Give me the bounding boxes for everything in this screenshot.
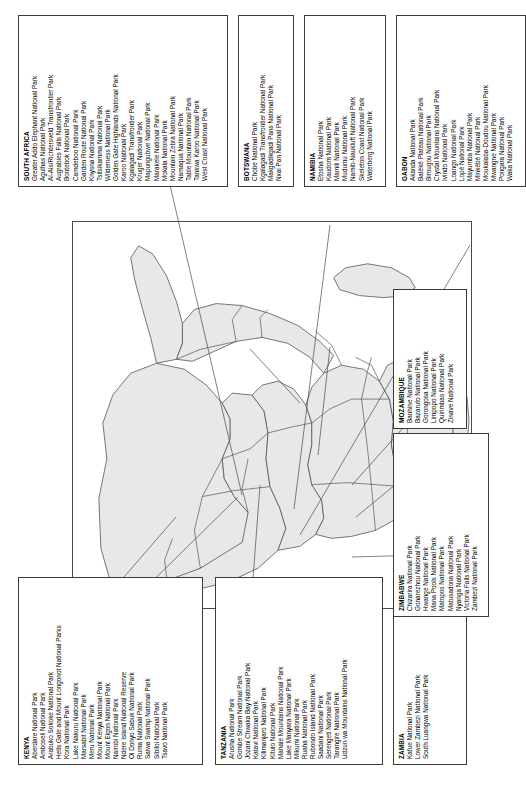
park-item: Ndere Island National Reserve xyxy=(120,583,128,759)
park-item: Makgadikgadi Pans National Park xyxy=(267,21,275,181)
park-item: Chobe National Park xyxy=(251,21,259,181)
park-item: Ol Donyo Sabuk National Park xyxy=(128,583,136,759)
park-list-mozambique: Banhine National Park Bazaruto National … xyxy=(406,295,455,423)
park-item: Minkébé National Park xyxy=(474,21,482,181)
park-item: Namaqua National Park xyxy=(177,21,185,181)
park-item: Zambezi National Park xyxy=(471,439,479,611)
park-item: Augrabies Falls National Park xyxy=(55,21,63,181)
park-item: Mudumu National Park xyxy=(341,21,349,181)
park-item: Greater Addo Elephant National Park xyxy=(31,21,39,181)
country-name-botswana: BOTSWANA xyxy=(243,21,251,181)
park-item: Mount Kenya National Park xyxy=(96,583,104,759)
country-name-zimbabwe: ZIMBABWE xyxy=(398,439,406,611)
park-item: Rubondo Island National Park xyxy=(309,583,317,759)
park-item: Moukalaba-Doudou National Park xyxy=(482,21,490,181)
park-item: Camdeboo National Park xyxy=(72,21,80,181)
park-item: Lake Manyara National Park xyxy=(285,583,293,759)
park-item: Ruaha National Park xyxy=(301,583,309,759)
park-item: Hells Gate and Mount Longonot National P… xyxy=(55,583,63,759)
park-item: Arabuko Sokoke National Park xyxy=(47,583,55,759)
park-item: Bazaruto National Park xyxy=(414,295,422,423)
park-item: Mount Elgon National Park xyxy=(104,583,112,759)
park-item: Kgalagadi Transfrontier Park xyxy=(128,21,136,181)
park-item: Nairobi National Park xyxy=(112,583,120,759)
park-item: Arusha National Park xyxy=(228,583,236,759)
country-name-tanzania: TANZANIA xyxy=(220,583,228,759)
park-item: Serengeti National Park xyxy=(325,583,333,759)
park-item: Wilderness National Park xyxy=(104,21,112,181)
park-list-kenya: Aberdare National Park Amboseli National… xyxy=(31,583,169,759)
park-item: Mwangne National Park xyxy=(490,21,498,181)
park-item: Mamili National Park xyxy=(333,21,341,181)
park-item: Marsabit National Park xyxy=(80,583,88,759)
park-list-namibia: Etosha National Park Kaudom National Par… xyxy=(317,21,374,181)
park-item: Kruger National Park xyxy=(136,21,144,181)
park-item: Kilimanjaro National Park xyxy=(260,583,268,759)
park-item: Table Mountain National Park xyxy=(185,21,193,181)
park-item: Katavi National Park xyxy=(252,583,260,759)
park-item: Mayumba National Park xyxy=(466,21,474,181)
country-box-zimbabwe: ZIMBABWE Chizarira National Park Gonarez… xyxy=(393,433,489,617)
park-item: Loango National Park xyxy=(450,21,458,181)
park-list-south-africa: Greater Addo Elephant National Park Agul… xyxy=(31,21,209,181)
park-item: Ivindo National Park xyxy=(441,21,449,181)
country-box-mozambique: MOZAMBIQUE Banhine National Park Bazarut… xyxy=(393,289,467,429)
park-item: Waterberg National Park xyxy=(366,21,374,181)
park-item: Golden Gate Highlands National Park xyxy=(112,21,120,181)
park-item: Mokala National Park xyxy=(161,21,169,181)
park-item: Aberdare National Park xyxy=(31,583,39,759)
park-item: Saiwa Swamp National Park xyxy=(144,583,152,759)
country-box-kenya: KENYA Aberdare National Park Amboseli Na… xyxy=(18,577,203,765)
park-item: Limpopo National Park xyxy=(430,295,438,423)
park-item: Victoria Falls National Park xyxy=(463,439,471,611)
park-item: Tarangire National Park xyxy=(333,583,341,759)
park-item: Birougou National Park xyxy=(425,21,433,181)
country-box-botswana: BOTSWANA Chobe National Park Kgalagadi T… xyxy=(238,15,294,187)
park-item: Kora National Park xyxy=(63,583,71,759)
park-item: Banhine National Park xyxy=(406,295,414,423)
park-item: Matopos National Park xyxy=(438,439,446,611)
country-name-south-africa: SOUTH AFRICA xyxy=(23,21,31,181)
park-item: Namib-Naukluft National Park xyxy=(349,21,357,181)
park-item: Mapungubwe National Park xyxy=(144,21,152,181)
park-item: Nxai Pan National Park xyxy=(275,21,283,181)
park-item: Tsavo National Park xyxy=(161,583,169,759)
park-item: Crystal Mountains National Park xyxy=(433,21,441,181)
park-item: Mikumi National Park xyxy=(293,583,301,759)
park-item: Waka National Park xyxy=(506,21,514,181)
country-box-tanzania: TANZANIA Arusha National Park Gombe Stre… xyxy=(215,577,383,765)
park-item: Pongara National Park xyxy=(498,21,506,181)
park-item: Kaudom National Park xyxy=(325,21,333,181)
park-item: Tankwa Karoo National Park xyxy=(193,21,201,181)
park-item: Lopé National Park xyxy=(458,21,466,181)
park-item: Mahale Mountains National Park xyxy=(277,583,285,759)
park-item: Nyanga National Park xyxy=(455,439,463,611)
park-item: Ai-Ais/Richtersveld Transfrontier Park xyxy=(47,21,55,181)
park-item: Kgalagadi Transfrontier National Park xyxy=(259,21,267,181)
park-list-tanzania: Arusha National Park Gombe Stream Nation… xyxy=(228,583,349,759)
park-item: Sibiloi National Park xyxy=(153,583,161,759)
park-item: Marakele National Park xyxy=(153,21,161,181)
country-name-mozambique: MOZAMBIQUE xyxy=(398,295,406,423)
park-item: Hwange National Park xyxy=(422,439,430,611)
park-item: West Coast National Park xyxy=(201,21,209,181)
park-item: Gombe Stream National Park xyxy=(236,583,244,759)
park-item: Matusadona National Park xyxy=(447,439,455,611)
country-name-namibia: NAMIBIA xyxy=(309,21,317,181)
park-list-zimbabwe: Chizarira National Park Gonarezhou Natio… xyxy=(406,439,479,611)
park-item: Knysna National Park xyxy=(88,21,96,181)
park-item: Karoo National Park xyxy=(120,21,128,181)
park-item: Kitulo National Park xyxy=(269,583,277,759)
park-item: Quirimbas National Park xyxy=(438,295,446,423)
park-list-gabon: Akanda National Park Batéké Plateau Nati… xyxy=(409,21,514,181)
park-item: Mana Pools National Park xyxy=(430,439,438,611)
park-item: Mountain Zebra National Park xyxy=(169,21,177,181)
park-item: Chizarira National Park xyxy=(406,439,414,611)
country-box-namibia: NAMIBIA Etosha National Park Kaudom Nati… xyxy=(304,15,386,187)
park-item: Akanda National Park xyxy=(409,21,417,181)
park-list-botswana: Chobe National Park Kgalagadi Transfront… xyxy=(251,21,283,181)
park-item: Ruma National Park xyxy=(136,583,144,759)
park-item: Etosha National Park xyxy=(317,21,325,181)
country-box-gabon: GABON Akanda National Park Batéké Platea… xyxy=(396,15,526,187)
